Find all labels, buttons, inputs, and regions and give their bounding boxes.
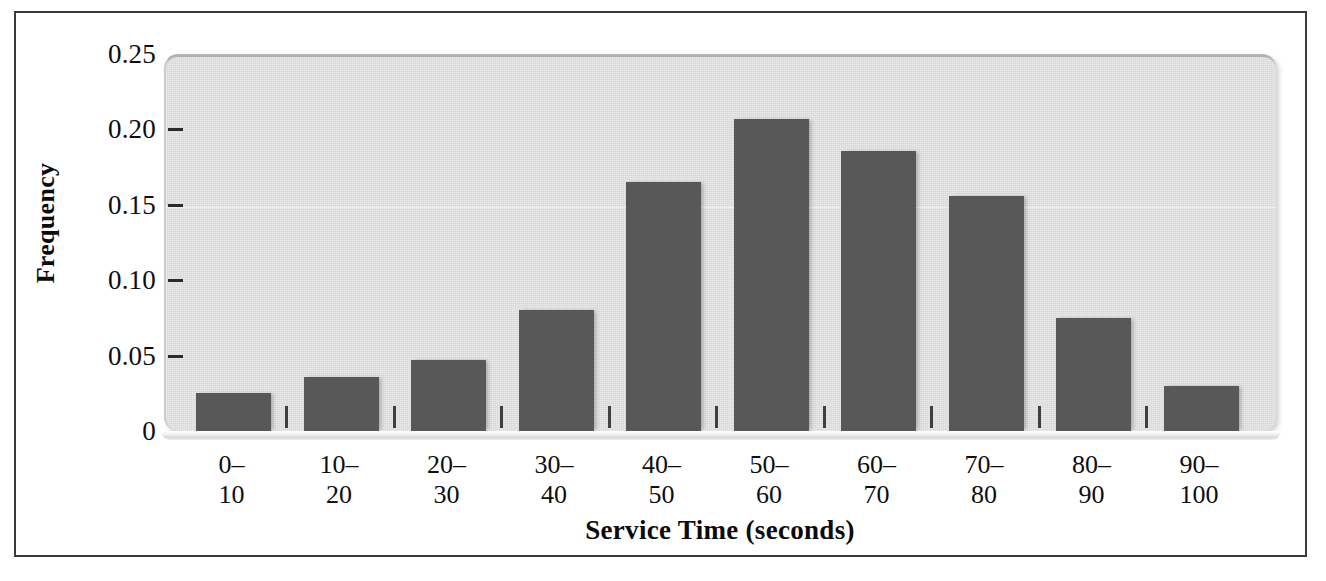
x-axis-category-label: 50–60 bbox=[709, 450, 829, 510]
x-axis-category-label: 90–100 bbox=[1139, 450, 1259, 510]
y-axis-tick bbox=[168, 355, 183, 358]
y-axis-tick-label: 0.10 bbox=[76, 267, 156, 294]
bar bbox=[734, 119, 809, 431]
x-axis-tick bbox=[285, 406, 288, 428]
category-range-start: 60– bbox=[817, 450, 937, 480]
bar bbox=[1056, 318, 1131, 431]
gridline-015 bbox=[166, 207, 1276, 208]
category-range-end: 90 bbox=[1032, 480, 1152, 510]
x-axis-category-label: 40–50 bbox=[602, 450, 722, 510]
x-axis-category-label: 60–70 bbox=[817, 450, 937, 510]
category-range-end: 100 bbox=[1139, 480, 1259, 510]
x-axis-tick bbox=[1038, 406, 1041, 428]
category-range-end: 20 bbox=[279, 480, 399, 510]
x-axis-category-label: 30–40 bbox=[494, 450, 614, 510]
y-axis-tick-label: 0 bbox=[76, 418, 156, 445]
figure-frame: 00.050.100.150.200.25 Frequency 0–1010–2… bbox=[14, 11, 1307, 557]
category-range-start: 10– bbox=[279, 450, 399, 480]
x-axis-category-label: 70–80 bbox=[924, 450, 1044, 510]
x-axis-tick bbox=[930, 406, 933, 428]
category-range-start: 70– bbox=[924, 450, 1044, 480]
category-range-start: 80– bbox=[1032, 450, 1152, 480]
bar bbox=[626, 182, 701, 431]
category-range-end: 60 bbox=[709, 480, 829, 510]
y-axis-tick bbox=[168, 279, 183, 282]
x-axis-tick bbox=[393, 406, 396, 428]
category-range-start: 0– bbox=[172, 450, 292, 480]
bar bbox=[519, 310, 594, 431]
x-axis-category-label: 10–20 bbox=[279, 450, 399, 510]
x-axis-category-label: 20–30 bbox=[387, 450, 507, 510]
bar bbox=[949, 196, 1024, 431]
y-axis-tick-labels: 00.050.100.150.200.25 bbox=[76, 13, 156, 581]
category-range-start: 90– bbox=[1139, 450, 1259, 480]
x-axis-category-label: 80–90 bbox=[1032, 450, 1152, 510]
category-range-end: 50 bbox=[602, 480, 722, 510]
x-axis-tick bbox=[500, 406, 503, 428]
category-range-start: 30– bbox=[494, 450, 614, 480]
bar bbox=[841, 151, 916, 431]
plot-area bbox=[164, 54, 1276, 431]
bar bbox=[1164, 386, 1239, 431]
y-axis-tick bbox=[168, 128, 183, 131]
x-axis-tick bbox=[608, 406, 611, 428]
x-axis-tick bbox=[715, 406, 718, 428]
x-axis-tick bbox=[823, 406, 826, 428]
x-axis-title: Service Time (seconds) bbox=[164, 515, 1276, 546]
bar bbox=[304, 377, 379, 431]
category-range-start: 50– bbox=[709, 450, 829, 480]
axis-baseline bbox=[161, 431, 1281, 440]
category-range-end: 30 bbox=[387, 480, 507, 510]
y-axis-tick-label: 0.20 bbox=[76, 116, 156, 143]
bar bbox=[196, 393, 271, 431]
histogram-figure: 00.050.100.150.200.25 Frequency 0–1010–2… bbox=[0, 0, 1326, 581]
bar bbox=[411, 360, 486, 431]
y-axis-tick-label: 0.15 bbox=[76, 192, 156, 219]
y-axis-tick bbox=[168, 204, 183, 207]
y-axis-tick-label: 0.05 bbox=[76, 343, 156, 370]
category-range-end: 80 bbox=[924, 480, 1044, 510]
x-axis-tick bbox=[1145, 406, 1148, 428]
category-range-start: 40– bbox=[602, 450, 722, 480]
category-range-end: 10 bbox=[172, 480, 292, 510]
category-range-start: 20– bbox=[387, 450, 507, 480]
y-axis-tick-label: 0.25 bbox=[76, 41, 156, 68]
category-range-end: 40 bbox=[494, 480, 614, 510]
category-range-end: 70 bbox=[817, 480, 937, 510]
y-axis-title: Frequency bbox=[31, 123, 61, 323]
x-axis-category-label: 0–10 bbox=[172, 450, 292, 510]
